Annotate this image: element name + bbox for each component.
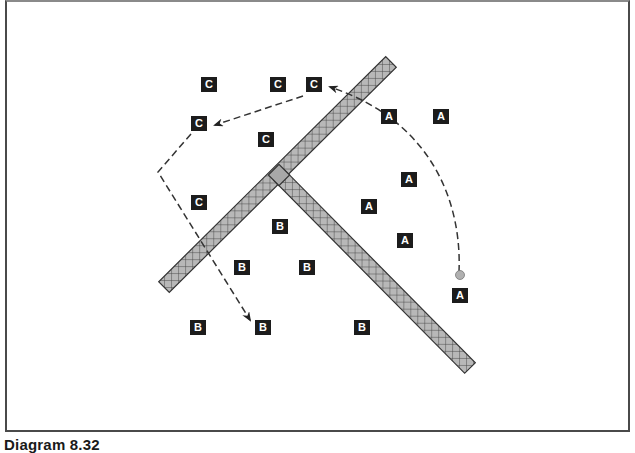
label-b: B: [299, 260, 315, 275]
label-a: A: [397, 233, 413, 248]
start-point-dot: [456, 271, 465, 280]
label-a: A: [381, 109, 397, 124]
label-b: B: [255, 320, 271, 335]
path-c-to-c-arrow: [215, 96, 303, 125]
label-c: C: [258, 132, 274, 147]
label-a: A: [433, 109, 449, 124]
label-c: C: [201, 77, 217, 92]
path-c-down-to-b-arrow: [158, 134, 250, 320]
label-c: C: [191, 195, 207, 210]
label-b: B: [272, 219, 288, 234]
label-a: A: [401, 172, 417, 187]
label-b: B: [234, 260, 250, 275]
label-c: C: [270, 77, 286, 92]
label-b: B: [190, 320, 206, 335]
diagram-caption: Diagram 8.32: [4, 437, 100, 452]
bars-group: [159, 57, 476, 374]
label-c: C: [191, 116, 207, 131]
label-a: A: [452, 288, 468, 303]
label-c: C: [306, 77, 322, 92]
label-a: A: [361, 199, 377, 214]
label-b: B: [354, 320, 370, 335]
